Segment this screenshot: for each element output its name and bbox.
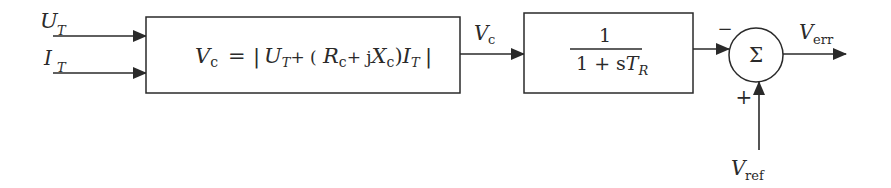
output-verr: V err [783, 20, 846, 54]
input-ut: U T [40, 9, 146, 38]
input-it: I T [43, 46, 146, 75]
block-diagram: U T I T Vc=|UT+ (Rc+ jXc)IT| V c 1 1 + s… [0, 0, 891, 188]
signal-vc: V c [460, 21, 524, 54]
input-it-symbol: I [43, 46, 53, 70]
signal-vc-subscript: c [488, 32, 495, 47]
output-subscript: err [813, 32, 834, 47]
reference-subscript: ref [745, 168, 765, 183]
sigma-icon: Σ [749, 43, 763, 67]
compensator-block: Vc=|UT+ (Rc+ jXc)IT| [146, 17, 460, 93]
compensator-formula: Vc=|UT+ (Rc+ jXc)IT| [195, 44, 432, 70]
summing-junction: Σ − + [717, 18, 783, 109]
sign-minus: − [717, 18, 732, 39]
transducer-numerator: 1 [599, 24, 611, 46]
sign-plus: + [736, 85, 753, 109]
transducer-block: 1 1 + sTR [524, 13, 693, 93]
